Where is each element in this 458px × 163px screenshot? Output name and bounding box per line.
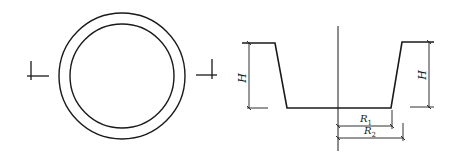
dimension-label-h-right: H (416, 70, 429, 81)
dimension-h-left: H (236, 41, 268, 110)
dimension-label-h-left: H (236, 73, 249, 84)
svg-text:R2: R2 (363, 125, 376, 139)
ring-section-diagram: H H R1 R2 (0, 0, 458, 163)
dimension-label-r2-subscript: 2 (372, 131, 376, 139)
ring-plan-view (27, 13, 217, 139)
inner-circle (70, 24, 174, 128)
section-mark-right (196, 59, 217, 79)
dimension-h-right: H (410, 40, 434, 109)
cross-section-view: H H R1 R2 (236, 26, 434, 151)
outer-circle (59, 13, 185, 139)
section-mark-left (27, 61, 49, 80)
